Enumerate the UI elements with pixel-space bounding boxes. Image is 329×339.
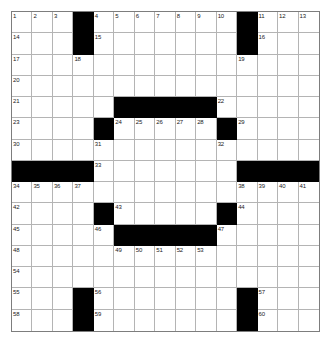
letter-cell[interactable] (94, 76, 114, 97)
letter-cell[interactable] (176, 182, 196, 203)
letter-cell[interactable] (176, 33, 196, 54)
letter-cell[interactable] (135, 76, 155, 97)
letter-cell[interactable] (135, 161, 155, 182)
letter-cell[interactable] (258, 97, 278, 118)
letter-cell[interactable] (53, 246, 73, 267)
letter-cell[interactable] (53, 118, 73, 139)
letter-cell[interactable] (299, 310, 319, 331)
letter-cell[interactable] (196, 33, 216, 54)
letter-cell[interactable]: 45 (12, 225, 32, 246)
letter-cell[interactable] (32, 288, 52, 309)
letter-cell[interactable] (278, 140, 298, 161)
letter-cell[interactable] (258, 267, 278, 288)
letter-cell[interactable] (299, 203, 319, 224)
letter-cell[interactable]: 20 (12, 76, 32, 97)
letter-cell[interactable] (155, 267, 175, 288)
letter-cell[interactable] (196, 140, 216, 161)
letter-cell[interactable]: 5 (114, 12, 134, 33)
letter-cell[interactable] (135, 140, 155, 161)
letter-cell[interactable]: 1 (12, 12, 32, 33)
letter-cell[interactable] (237, 140, 257, 161)
letter-cell[interactable] (135, 55, 155, 76)
letter-cell[interactable]: 44 (237, 203, 257, 224)
letter-cell[interactable] (114, 310, 134, 331)
letter-cell[interactable] (237, 246, 257, 267)
letter-cell[interactable] (217, 310, 237, 331)
letter-cell[interactable] (299, 33, 319, 54)
letter-cell[interactable]: 2 (32, 12, 52, 33)
letter-cell[interactable] (73, 76, 93, 97)
letter-cell[interactable] (114, 76, 134, 97)
letter-cell[interactable]: 47 (217, 225, 237, 246)
letter-cell[interactable] (258, 118, 278, 139)
letter-cell[interactable] (53, 225, 73, 246)
letter-cell[interactable] (299, 76, 319, 97)
letter-cell[interactable]: 14 (12, 33, 32, 54)
letter-cell[interactable]: 16 (258, 33, 278, 54)
letter-cell[interactable]: 34 (12, 182, 32, 203)
letter-cell[interactable] (196, 55, 216, 76)
letter-cell[interactable] (114, 161, 134, 182)
letter-cell[interactable] (258, 203, 278, 224)
letter-cell[interactable] (114, 140, 134, 161)
letter-cell[interactable]: 38 (237, 182, 257, 203)
letter-cell[interactable]: 4 (94, 12, 114, 33)
letter-cell[interactable] (176, 310, 196, 331)
letter-cell[interactable]: 40 (278, 182, 298, 203)
letter-cell[interactable] (135, 267, 155, 288)
letter-cell[interactable]: 23 (12, 118, 32, 139)
letter-cell[interactable]: 13 (299, 12, 319, 33)
letter-cell[interactable] (73, 225, 93, 246)
letter-cell[interactable] (53, 267, 73, 288)
letter-cell[interactable] (32, 118, 52, 139)
letter-cell[interactable] (217, 267, 237, 288)
letter-cell[interactable] (217, 76, 237, 97)
letter-cell[interactable] (135, 310, 155, 331)
letter-cell[interactable] (278, 203, 298, 224)
letter-cell[interactable] (196, 267, 216, 288)
letter-cell[interactable]: 17 (12, 55, 32, 76)
letter-cell[interactable] (114, 55, 134, 76)
letter-cell[interactable] (258, 55, 278, 76)
letter-cell[interactable]: 19 (237, 55, 257, 76)
letter-cell[interactable]: 27 (176, 118, 196, 139)
letter-cell[interactable] (32, 140, 52, 161)
letter-cell[interactable] (299, 225, 319, 246)
letter-cell[interactable] (258, 140, 278, 161)
letter-cell[interactable] (299, 97, 319, 118)
letter-cell[interactable] (32, 246, 52, 267)
letter-cell[interactable] (53, 203, 73, 224)
letter-cell[interactable] (135, 33, 155, 54)
letter-cell[interactable] (73, 97, 93, 118)
letter-cell[interactable] (32, 203, 52, 224)
letter-cell[interactable] (278, 76, 298, 97)
letter-cell[interactable] (73, 267, 93, 288)
letter-cell[interactable]: 12 (278, 12, 298, 33)
letter-cell[interactable] (94, 55, 114, 76)
letter-cell[interactable]: 39 (258, 182, 278, 203)
letter-cell[interactable] (32, 310, 52, 331)
letter-cell[interactable]: 32 (217, 140, 237, 161)
letter-cell[interactable] (155, 161, 175, 182)
letter-cell[interactable]: 31 (94, 140, 114, 161)
letter-cell[interactable] (217, 246, 237, 267)
letter-cell[interactable]: 24 (114, 118, 134, 139)
letter-cell[interactable] (217, 161, 237, 182)
letter-cell[interactable]: 48 (12, 246, 32, 267)
letter-cell[interactable] (135, 203, 155, 224)
letter-cell[interactable] (196, 203, 216, 224)
letter-cell[interactable] (237, 267, 257, 288)
letter-cell[interactable]: 33 (94, 161, 114, 182)
letter-cell[interactable] (278, 33, 298, 54)
letter-cell[interactable] (278, 288, 298, 309)
letter-cell[interactable] (176, 140, 196, 161)
letter-cell[interactable] (32, 55, 52, 76)
letter-cell[interactable]: 35 (32, 182, 52, 203)
letter-cell[interactable] (32, 267, 52, 288)
letter-cell[interactable] (217, 182, 237, 203)
letter-cell[interactable] (278, 55, 298, 76)
letter-cell[interactable] (114, 288, 134, 309)
letter-cell[interactable] (155, 203, 175, 224)
letter-cell[interactable] (196, 182, 216, 203)
letter-cell[interactable] (94, 246, 114, 267)
